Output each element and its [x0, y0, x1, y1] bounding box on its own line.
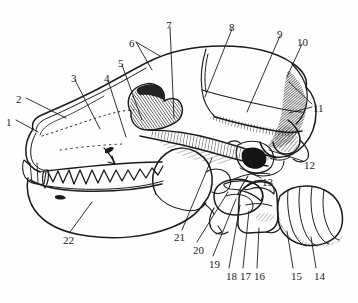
callout-label-1: 1 — [6, 117, 12, 128]
callout-label-4: 4 — [104, 73, 110, 84]
callout-label-18: 18 — [226, 271, 237, 282]
callout-label-20: 20 — [193, 245, 204, 256]
callout-label-6: 6 — [129, 38, 135, 49]
callout-label-21: 21 — [174, 232, 185, 243]
skull-anatomy-figure: 12345678910111213141516171819202122 — [0, 0, 358, 303]
callout-label-3: 3 — [71, 73, 77, 84]
callout-label-16: 16 — [254, 271, 265, 282]
callout-label-8: 8 — [229, 22, 235, 33]
callout-label-13: 13 — [262, 177, 273, 188]
callout-label-22: 22 — [63, 235, 74, 246]
callout-label-7: 7 — [166, 20, 172, 31]
callout-label-12: 12 — [304, 160, 315, 171]
callout-label-9: 9 — [277, 29, 283, 40]
callout-label-5: 5 — [118, 58, 124, 69]
callout-label-17: 17 — [240, 271, 251, 282]
callout-label-15: 15 — [291, 271, 302, 282]
callout-label-14: 14 — [314, 271, 325, 282]
callout-label-19: 19 — [209, 259, 220, 270]
callout-label-10: 10 — [297, 37, 308, 48]
callout-label-11: 11 — [313, 103, 324, 114]
callout-label-2: 2 — [16, 94, 22, 105]
